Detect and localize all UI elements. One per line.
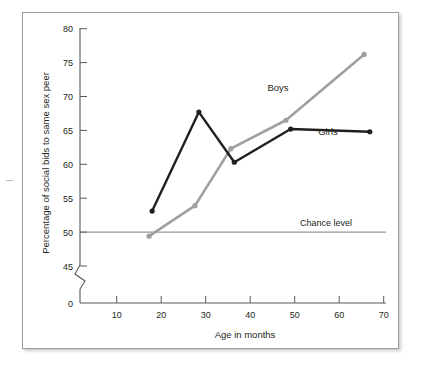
x-tick-label-30: 30 (201, 310, 211, 320)
data-point-girls (367, 129, 372, 134)
chart-frame: 80 75 70 65 60 55 50 45 0 10 20 30 (22, 12, 399, 349)
y-tick-label-45: 45 (63, 262, 73, 272)
data-point-girls (232, 160, 237, 165)
figure-container: 80 75 70 65 60 55 50 45 0 10 20 30 (0, 0, 421, 375)
y-tick-label-80: 80 (63, 24, 73, 34)
data-point-boys (228, 146, 233, 151)
series-label-boys: Boys (267, 82, 288, 93)
data-point-boys (283, 118, 288, 123)
data-point-boys (146, 234, 151, 239)
series-label-girls: Girls (318, 126, 338, 137)
y-tick-label-70: 70 (63, 92, 73, 102)
y-tick-label-50: 50 (63, 228, 73, 238)
data-point-girls (288, 126, 293, 131)
x-tick-label-60: 60 (334, 310, 344, 320)
x-tick-label-10: 10 (112, 310, 122, 320)
data-point-boys (192, 203, 197, 208)
y-axis-break-icon (75, 265, 85, 289)
y-tick-label-0: 0 (68, 299, 73, 309)
y-tick-label-75: 75 (63, 58, 73, 68)
x-tick-label-70: 70 (379, 310, 389, 320)
data-point-boys (362, 52, 367, 57)
x-tick-label-40: 40 (245, 310, 255, 320)
page-edge-mark (6, 180, 13, 181)
y-tick-label-65: 65 (63, 126, 73, 136)
y-tick-marks (80, 29, 87, 266)
series-line-boys (149, 54, 364, 236)
x-tick-marks (117, 296, 384, 303)
y-tick-label-55: 55 (63, 194, 73, 204)
data-point-girls (196, 109, 201, 114)
series-markers-girls (150, 109, 373, 213)
y-axis-title: Percentage of social bids to same sex pe… (40, 72, 51, 254)
x-tick-label-20: 20 (156, 310, 166, 320)
data-point-girls (150, 208, 155, 213)
x-tick-label-50: 50 (290, 310, 300, 320)
x-axis-title: Age in months (215, 329, 276, 340)
chance-level-label: Chance level (300, 218, 352, 228)
y-tick-label-60: 60 (63, 160, 73, 170)
line-chart: 80 75 70 65 60 55 50 45 0 10 20 30 (23, 13, 398, 348)
